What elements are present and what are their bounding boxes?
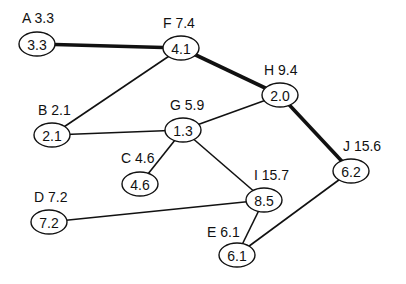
node-label: E 6.1 bbox=[207, 224, 240, 240]
node-label: F 7.4 bbox=[163, 15, 195, 31]
node-a: 3.3A 3.3 bbox=[19, 10, 55, 56]
node-label: I 15.7 bbox=[254, 167, 289, 183]
node-c: 4.6C 4.6 bbox=[121, 150, 158, 196]
edge-b-g bbox=[52, 130, 183, 135]
edge-a-f bbox=[37, 44, 181, 48]
node-value: 7.2 bbox=[39, 215, 59, 231]
edge-j-e bbox=[237, 171, 351, 255]
node-value: 2.1 bbox=[42, 128, 62, 144]
node-b: 2.1B 2.1 bbox=[34, 102, 71, 147]
network-diagram: 3.3A 3.34.1F 7.42.0H 9.42.1B 2.11.3G 5.9… bbox=[0, 0, 406, 284]
node-value: 1.3 bbox=[173, 123, 193, 139]
node-h: 2.0H 9.4 bbox=[262, 62, 298, 107]
node-value: 2.0 bbox=[270, 88, 290, 104]
node-value: 4.6 bbox=[130, 177, 150, 193]
node-value: 3.3 bbox=[27, 37, 47, 53]
node-value: 8.5 bbox=[254, 193, 274, 209]
edge-g-i bbox=[183, 130, 264, 200]
node-g: 1.3G 5.9 bbox=[165, 97, 204, 142]
nodes-layer: 3.3A 3.34.1F 7.42.0H 9.42.1B 2.11.3G 5.9… bbox=[19, 10, 381, 267]
node-value: 6.2 bbox=[341, 164, 361, 180]
node-value: 4.1 bbox=[171, 41, 191, 57]
edge-h-j bbox=[280, 95, 351, 171]
node-label: B 2.1 bbox=[38, 102, 71, 118]
node-value: 6.1 bbox=[227, 248, 247, 264]
node-label: D 7.2 bbox=[34, 189, 68, 205]
edge-f-b bbox=[52, 48, 181, 135]
node-e: 6.1E 6.1 bbox=[207, 224, 255, 267]
node-label: C 4.6 bbox=[121, 150, 155, 166]
node-label: J 15.6 bbox=[343, 138, 381, 154]
edge-d-i bbox=[49, 200, 264, 222]
edges-layer bbox=[37, 44, 351, 255]
node-d: 7.2D 7.2 bbox=[31, 189, 68, 234]
node-label: H 9.4 bbox=[264, 62, 298, 78]
node-f: 4.1F 7.4 bbox=[163, 15, 199, 60]
node-label: A 3.3 bbox=[22, 10, 54, 26]
node-label: G 5.9 bbox=[170, 97, 204, 113]
